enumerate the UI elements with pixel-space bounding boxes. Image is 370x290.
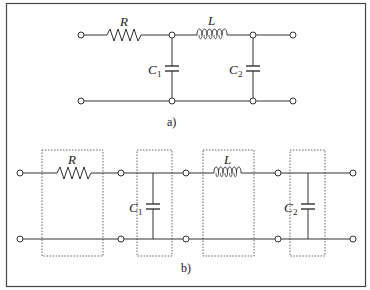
resistor-r-b [57,167,91,179]
capacitor-c1-b [146,173,160,239]
caption-b: b) [181,261,191,275]
caption-a: a) [167,115,176,129]
circuit-b [17,167,356,242]
label-r-b: R [67,152,76,167]
label-c1-b: C [129,200,138,215]
terminals-a [78,32,296,104]
label-c1-a: C [148,62,157,77]
terminals-b [17,170,356,242]
inductor-l-b [214,167,241,177]
capacitor-c1-a [165,38,179,98]
block-box-c1 [137,150,172,256]
capacitor-c2-b [301,173,315,239]
label-l-a: L [207,13,215,28]
label-c2-sub-a: 2 [238,69,243,79]
label-c2-b: C [284,200,293,215]
inductor-l-a [197,29,227,39]
figure-frame [7,4,366,287]
label-r-a: R [119,14,128,29]
circuit-a [78,29,296,104]
label-c1-sub-b: 1 [138,207,143,217]
label-c2-sub-b: 2 [293,207,298,217]
label-c2-a: C [229,62,238,77]
label-c1-sub-a: 1 [157,69,162,79]
label-l-b: L [223,152,231,167]
capacitor-c2-a [246,38,260,98]
resistor-r-a [107,29,141,41]
